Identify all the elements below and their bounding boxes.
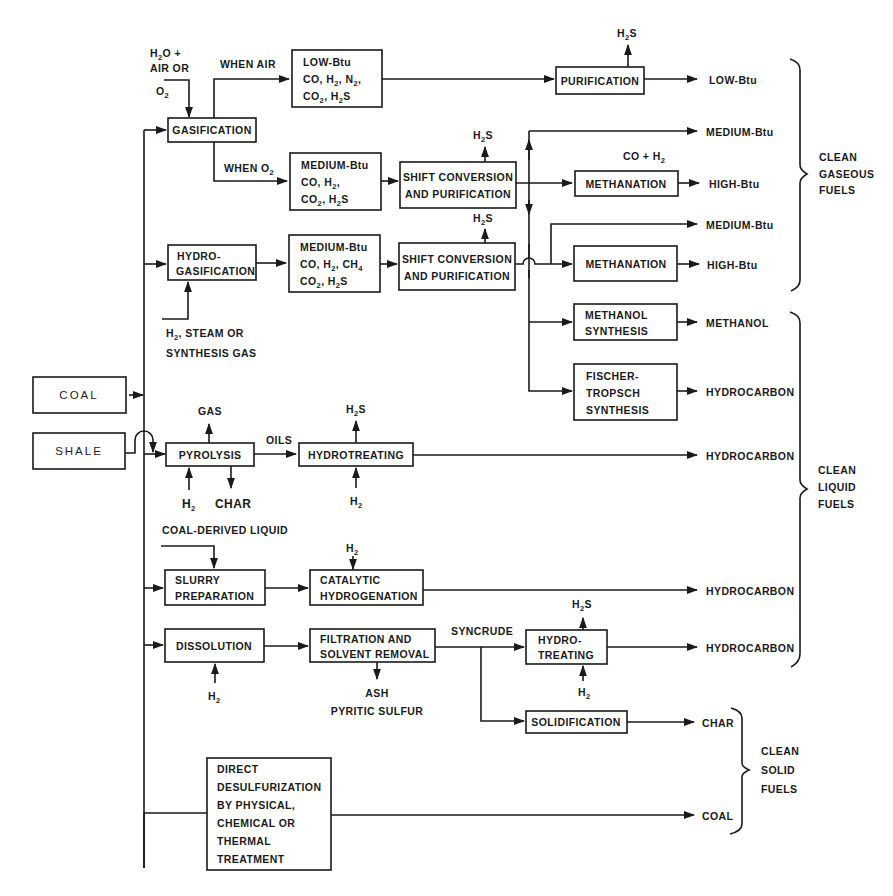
process-shift-conversion-1: SHIFT CONVERSION AND PURIFICATION (400, 162, 516, 208)
category-gaseous-1: CLEAN (819, 151, 857, 163)
product-hydrocarbon-pyrolysis: HYDROCARBON (706, 450, 794, 462)
process-slurry-preparation: SLURRY PREPARATION (165, 570, 265, 605)
svg-text:FILTRATION AND: FILTRATION AND (320, 633, 412, 645)
svg-text:HYDROGENATION: HYDROGENATION (320, 590, 418, 602)
purification-h2s-label: H2S (617, 27, 637, 42)
category-solid-3: FUELS (761, 783, 797, 795)
category-liquid-3: FUELS (818, 498, 854, 510)
pyritic-sulfur-label: PYRITIC SULFUR (331, 705, 424, 717)
process-direct-desulfurization: DIRECT DESULFURIZATION BY PHYSICAL, CHEM… (207, 758, 331, 870)
stream-low-btu-gas: LOW-Btu CO, H2, N2, CO2, H2S (292, 50, 382, 107)
gasification-label: GASIFICATION (172, 124, 251, 136)
to-fischer-tropsch-arrow (529, 334, 572, 391)
pyrolysis-gas-label: GAS (198, 405, 222, 417)
process-purification: PURIFICATION (556, 67, 644, 94)
syncrude-label: SYNCRUDE (451, 625, 513, 637)
svg-text:THERMAL: THERMAL (217, 835, 271, 847)
coal-derived-liquid-label: COAL-DERIVED LIQUID (162, 524, 288, 536)
syncrude-to-solidification-arrow (481, 647, 524, 721)
gasification-input-air: AIR OR (150, 62, 189, 74)
shift-2-h2s-label: H2S (473, 212, 493, 227)
svg-text:SLURRY: SLURRY (175, 574, 220, 586)
svg-text:HYDRO-: HYDRO- (177, 250, 221, 262)
product-hydrocarbon-catalytic: HYDROCARBON (706, 585, 794, 597)
svg-text:PYROLYSIS: PYROLYSIS (179, 449, 242, 461)
svg-text:DISSOLUTION: DISSOLUTION (176, 640, 252, 652)
process-filtration-solvent-removal: FILTRATION AND SOLVENT REMOVAL (310, 629, 435, 662)
product-high-btu-1: HIGH-Btu (709, 178, 759, 190)
svg-text:TREATING: TREATING (538, 649, 594, 661)
svg-text:AND PURIFICATION: AND PURIFICATION (405, 188, 511, 200)
svg-text:SHIFT CONVERSION: SHIFT CONVERSION (403, 171, 513, 183)
brace-liquid (790, 312, 807, 667)
pyrolysis-h2-label: H2 (182, 497, 196, 513)
stream-medium-btu-gas-1: MEDIUM-Btu CO, H2, CO2, H2S (290, 153, 381, 210)
hydro-treating-h2s-label: H2S (572, 598, 592, 613)
process-methanol-synthesis: METHANOL SYNTHESIS (574, 304, 677, 340)
coal-derived-liquid-arrow (161, 546, 214, 568)
category-solid-1: CLEAN (761, 745, 799, 757)
category-gaseous-2: GASEOUS (819, 168, 874, 180)
product-char: CHAR (702, 717, 734, 729)
catalytic-h2-label: H2 (346, 542, 359, 557)
dissolution-h2-label: H2 (208, 690, 221, 705)
process-hydrogasification: HYDRO- GASIFICATION (168, 245, 256, 280)
process-hydro-treating: HYDRO- TREATING (526, 630, 607, 664)
svg-text:AND PURIFICATION: AND PURIFICATION (404, 270, 510, 282)
hydro-treating-h2-label: H2 (578, 686, 591, 701)
co-h2-label: CO + H2 (623, 150, 665, 165)
hydrogasification-input-arrow (162, 282, 188, 319)
coal-conversion-flow-diagram: COAL SHALE H2O + AIR OR O2 GASIFICATION … (0, 0, 893, 896)
hydrogasification-input-synthesis-gas: SYNTHESIS GAS (166, 347, 256, 359)
svg-text:SYNTHESIS: SYNTHESIS (585, 325, 648, 337)
process-solidification: SOLIDIFICATION (526, 711, 627, 733)
source-coal-label: COAL (59, 389, 98, 401)
svg-text:LOW-Btu: LOW-Btu (303, 56, 351, 68)
process-methanation-2: METHANATION (574, 246, 677, 281)
svg-text:SOLIDIFICATION: SOLIDIFICATION (531, 716, 620, 728)
category-solid-2: SOLID (761, 764, 795, 776)
source-shale-label: SHALE (55, 445, 103, 457)
svg-text:TROPSCH: TROPSCH (586, 387, 640, 399)
svg-text:CATALYTIC: CATALYTIC (320, 574, 381, 586)
product-hydrocarbon-syncrude: HYDROCARBON (706, 642, 794, 654)
svg-text:SHIFT CONVERSION: SHIFT CONVERSION (402, 253, 512, 265)
source-shale: SHALE (33, 433, 125, 469)
stream-medium-btu-gas-2: MEDIUM-Btu CO, H2, CH4 CO2, H2S (289, 235, 380, 292)
product-medium-btu-2: MEDIUM-Btu (706, 219, 774, 231)
svg-text:PURIFICATION: PURIFICATION (561, 75, 640, 87)
svg-text:HYDROTREATING: HYDROTREATING (308, 449, 404, 461)
product-high-btu-2: HIGH-Btu (707, 259, 757, 271)
process-gasification: GASIFICATION (168, 118, 256, 142)
process-pyrolysis: PYROLYSIS (166, 443, 254, 466)
product-low-btu: LOW-Btu (709, 74, 757, 86)
product-coal: COAL (702, 810, 734, 822)
when-air-arrow (214, 79, 289, 118)
svg-text:FISCHER-: FISCHER- (586, 370, 639, 382)
product-methanol: METHANOL (706, 317, 769, 329)
svg-text:SYNTHESIS: SYNTHESIS (586, 404, 649, 416)
source-coal: COAL (33, 377, 126, 413)
hydrogasification-input-h2: H2, STEAM OR (166, 327, 244, 342)
category-liquid-2: LIQUID (818, 481, 856, 493)
process-fischer-tropsch: FISCHER- TROPSCH SYNTHESIS (574, 364, 677, 420)
svg-text:TREATMENT: TREATMENT (217, 853, 285, 865)
process-shift-conversion-2: SHIFT CONVERSION AND PURIFICATION (399, 243, 515, 290)
pyrolysis-char-label: CHAR (215, 497, 251, 511)
svg-text:SOLVENT REMOVAL: SOLVENT REMOVAL (320, 648, 430, 660)
category-gaseous-3: FUELS (819, 184, 855, 196)
svg-text:MEDIUM-Btu: MEDIUM-Btu (300, 241, 368, 253)
svg-text:HYDRO-: HYDRO- (538, 634, 582, 646)
category-liquid-1: CLEAN (818, 464, 856, 476)
svg-text:PREPARATION: PREPARATION (175, 590, 254, 602)
svg-text:CHEMICAL OR: CHEMICAL OR (217, 817, 295, 829)
process-dissolution: DISSOLUTION (165, 629, 264, 662)
svg-text:MEDIUM-Btu: MEDIUM-Btu (301, 159, 369, 171)
shale-hop-line (125, 431, 153, 453)
when-o2-label: WHEN O2 (224, 162, 274, 177)
brace-gaseous (790, 59, 807, 291)
product-medium-btu-1: MEDIUM-Btu (706, 126, 774, 138)
svg-text:METHANATION: METHANATION (585, 178, 666, 190)
process-hydrotreating: HYDROTREATING (299, 443, 413, 466)
svg-text:METHANOL: METHANOL (585, 309, 648, 321)
